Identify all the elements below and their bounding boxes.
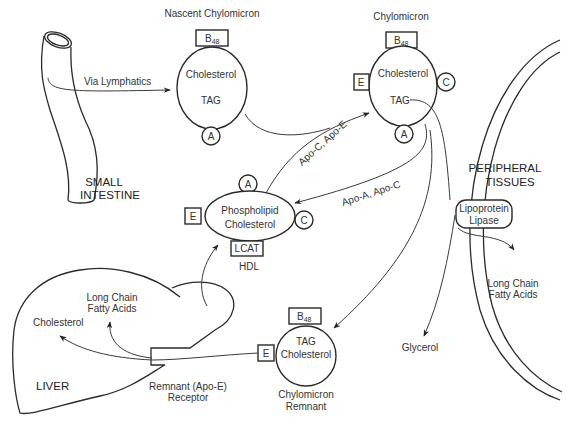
receptor-label-line2: Receptor — [168, 392, 209, 403]
remnant-title-line1: Chylomicron — [278, 389, 334, 400]
apo-a-apo-c-transfer-label: Apo-A, Apo-C — [340, 179, 402, 208]
peripheral-fatty-acids-line1: Long Chain — [487, 278, 538, 289]
remnant-apo-e-label: E — [263, 348, 270, 359]
chylomicron-apo-c-label: C — [442, 77, 449, 88]
hdl-cholesterol-label: Cholesterol — [225, 219, 276, 230]
chylomicron-title: Chylomicron — [373, 11, 429, 22]
glycerol-label: Glycerol — [402, 342, 439, 353]
nascent-apo-a-label: A — [208, 131, 215, 142]
liver-fatty-acids-line2: Fatty Acids — [88, 303, 137, 314]
lipoprotein-lipase-line1: Lipoprotein — [459, 203, 508, 214]
small-intestine-label-line2: INTESTINE — [80, 189, 140, 201]
chylomicron-to-remnant-arrow — [334, 130, 432, 328]
peripheral-tissues-label-line2: TISSUES — [485, 176, 535, 188]
liver-fatty-acids-line1: Long Chain — [86, 292, 137, 303]
chylomicron-particle — [369, 46, 437, 126]
chylomicron-apo-e-label: E — [358, 77, 365, 88]
hdl-particle — [205, 191, 295, 241]
peripheral-tissues-label-line1: PERIPHERAL — [469, 162, 542, 174]
hdl-apo-a-label: A — [245, 179, 252, 190]
remnant-cholesterol-label: Cholesterol — [281, 349, 332, 360]
hdl-phospholipid-label: Phospholipid — [221, 205, 278, 216]
nascent-cholesterol-label: Cholesterol — [186, 69, 237, 80]
hdl-apo-c-label: C — [300, 215, 307, 226]
peripheral-fatty-acids-line2: Fatty Acids — [489, 289, 538, 300]
remnant-to-receptor-connector — [152, 353, 258, 360]
nascent-to-mature-connector — [245, 114, 330, 135]
lipase-to-fatty-acids-arrow — [458, 228, 514, 250]
hdl-title: HDL — [239, 261, 259, 272]
small-intestine-label-line1: SMALL — [85, 176, 123, 188]
remnant-tag-label: TAG — [296, 336, 316, 347]
nascent-chylomicron-title: Nascent Chylomicron — [164, 8, 259, 19]
remnant-title-line2: Remnant — [286, 401, 327, 412]
hdl-apo-e-label: E — [190, 211, 197, 222]
receptor-to-cholesterol-arrow — [60, 336, 152, 360]
nascent-chylomicron-particle — [177, 47, 247, 129]
liver-label: LIVER — [36, 380, 69, 392]
apo-c-apo-e-transfer-label: Apo-C, Apo-E — [296, 118, 349, 167]
chylomicron-metabolism-diagram: SMALL INTESTINE Via Lymphatics Nascent C… — [0, 0, 572, 425]
lipoprotein-lipase-line2: Lipase — [469, 215, 499, 226]
hdl-lcat-label: LCAT — [235, 243, 260, 254]
chylomicron-apo-a-label: A — [401, 129, 408, 140]
via-lymphatics-label: Via Lymphatics — [84, 76, 151, 87]
liver-cholesterol-label: Cholesterol — [33, 317, 84, 328]
liver-to-hdl-arrow — [202, 245, 218, 306]
receptor-to-fatty-acids-arrow — [110, 322, 152, 358]
lipase-to-glycerol-arrow — [424, 215, 455, 336]
chylomicron-tag-label: TAG — [390, 95, 410, 106]
chylomicron-cholesterol-label: Cholesterol — [378, 68, 429, 79]
nascent-tag-label: TAG — [201, 95, 221, 106]
receptor-label-line1: Remnant (Apo-E) — [149, 381, 227, 392]
